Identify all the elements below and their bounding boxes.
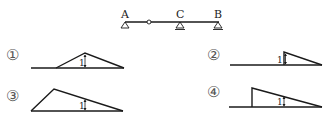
option-3-marker: ③	[6, 87, 19, 105]
option-4-marker: ④	[207, 83, 220, 101]
option-3[interactable]: ③ 1	[6, 87, 123, 111]
ordinate-value: 1	[79, 58, 85, 68]
support-c-icon	[176, 22, 184, 28]
option-4[interactable]: ④ 1	[207, 83, 322, 107]
ordinate-value: 1	[277, 97, 283, 107]
option-1[interactable]: ① 1	[6, 46, 124, 68]
support-b-icon	[214, 22, 222, 28]
influence-line-diagram: A C B ① 1 ② 1 ③ 1 ④	[0, 0, 333, 119]
support-b-label: B	[214, 8, 222, 21]
influence-line	[56, 53, 124, 68]
option-2-marker: ②	[207, 46, 220, 64]
influence-line	[284, 52, 322, 65]
option-2[interactable]: ② 1	[207, 46, 322, 65]
hinge-icon	[147, 20, 151, 24]
influence-line	[252, 88, 322, 107]
support-c-label: C	[176, 8, 184, 21]
influence-line	[31, 89, 123, 111]
option-1-marker: ①	[6, 46, 19, 64]
ordinate-value: 1	[79, 101, 85, 111]
ordinate-value: 1	[277, 55, 283, 65]
support-a-label: A	[120, 8, 130, 21]
support-a-icon	[121, 22, 129, 28]
beam-figure: A C B	[120, 8, 223, 30]
